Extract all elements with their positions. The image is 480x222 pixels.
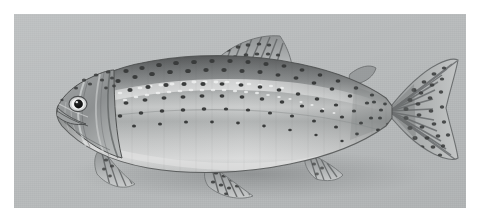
eye [69,96,87,111]
caudal-fin [388,59,458,160]
photograph [14,14,466,208]
eye-pupil [74,100,83,109]
rainbow-trout-illustration [14,14,466,208]
eye-highlight [76,101,79,103]
nostril [60,99,63,101]
image-canvas [0,0,480,222]
